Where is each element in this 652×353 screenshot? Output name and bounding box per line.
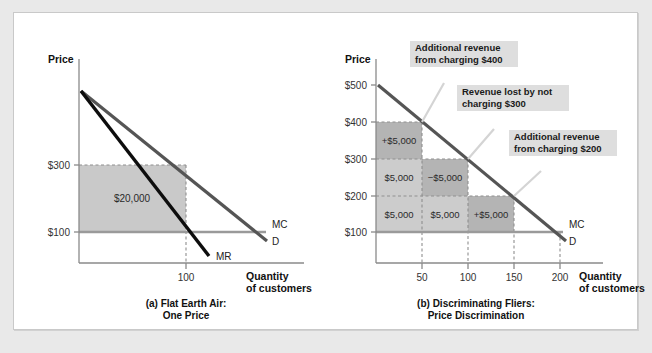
- y-tick-label-300: $300: [345, 154, 368, 165]
- cell-label-plus5000-400: +$5,000: [382, 135, 417, 146]
- figure-root: $300 $100 100 Price Quantity of customer…: [0, 0, 652, 353]
- chart-b-svg: Additional revenue from charging $400 Re…: [326, 13, 639, 331]
- chart-a-svg: $300 $100 100 Price Quantity of customer…: [14, 13, 326, 331]
- curve-label-mc-a: MC: [272, 219, 288, 230]
- cell-label-5000-300-left: $5,000: [384, 172, 413, 183]
- chart-a-caption-line1: (a) Flat Earth Air:: [146, 298, 227, 309]
- y-tick-label-100: $100: [48, 227, 71, 238]
- y-axis-title-a: Price: [48, 53, 74, 65]
- x-axis-title-b-line1: Quantity: [579, 270, 622, 282]
- leader-line-callout-200: [514, 171, 541, 196]
- y-tick-label-300: $300: [48, 160, 71, 171]
- chart-panel-b: Additional revenue from charging $400 Re…: [326, 13, 639, 331]
- leader-line-callout-300: [468, 129, 494, 159]
- chart-b-caption-line1: (b) Discriminating Fliers:: [417, 298, 535, 309]
- leader-line-callout-400: [422, 83, 444, 122]
- callout-300-line1: Revenue lost by not: [462, 86, 553, 97]
- chart-a-caption-line2: One Price: [163, 310, 210, 321]
- x-tick-label-50: 50: [416, 272, 428, 283]
- y-tick-label-200: $200: [345, 191, 368, 202]
- cell-label-5000-200-mid: $5,000: [430, 209, 459, 220]
- x-axis-title-b-line2: of customers: [579, 282, 645, 294]
- x-tick-label-100: 100: [178, 272, 195, 283]
- callout-200-line1: Additional revenue: [514, 131, 600, 142]
- y-tick-label-500: $500: [345, 80, 368, 91]
- x-axis-title-a-line2: of customers: [246, 282, 312, 294]
- chart-panel-a: $300 $100 100 Price Quantity of customer…: [14, 13, 326, 331]
- x-tick-label-150: 150: [506, 272, 523, 283]
- callout-400-line1: Additional revenue: [415, 42, 501, 53]
- cell-label-minus5000-300: −$5,000: [428, 172, 463, 183]
- y-tick-label-400: $400: [345, 117, 368, 128]
- curve-label-d-a: D: [272, 236, 279, 247]
- area-label-20000: $20,000: [114, 193, 151, 204]
- callout-400-line2: from charging $400: [415, 54, 503, 65]
- y-axis-title-b: Price: [345, 53, 371, 65]
- callout-300-line2: charging $300: [462, 98, 526, 109]
- x-tick-label-200: 200: [552, 272, 569, 283]
- cell-label-5000-200-left: $5,000: [384, 209, 413, 220]
- chart-b-caption-line2: Price Discrimination: [428, 310, 525, 321]
- curve-label-mr-a: MR: [216, 251, 232, 262]
- cell-label-plus5000-200: +$5,000: [474, 209, 509, 220]
- figure-panel: $300 $100 100 Price Quantity of customer…: [13, 12, 638, 330]
- curve-label-mc-b: MC: [569, 219, 585, 230]
- x-tick-label-100: 100: [460, 272, 477, 283]
- y-tick-label-100: $100: [345, 227, 368, 238]
- x-axis-title-a-line1: Quantity: [246, 270, 289, 282]
- callout-200-line2: from charging $200: [514, 143, 602, 154]
- curve-label-d-b: D: [569, 236, 576, 247]
